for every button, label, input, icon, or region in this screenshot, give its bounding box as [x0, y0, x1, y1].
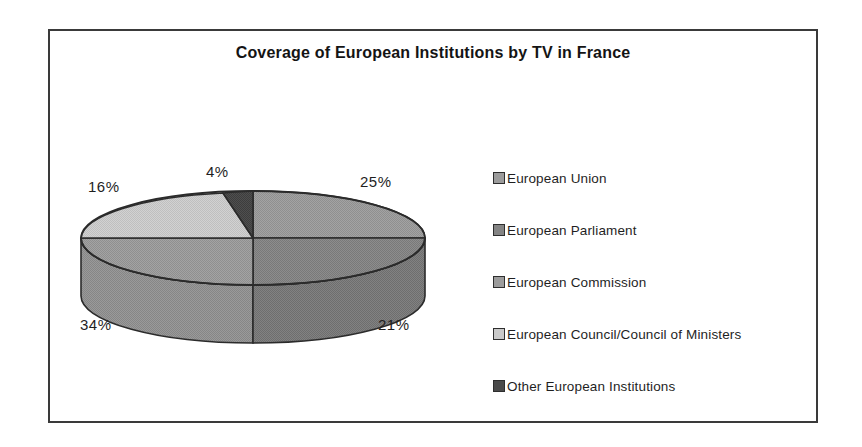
legend-label: European Commission [507, 275, 646, 290]
legend-label: European Council/Council of Ministers [507, 327, 741, 342]
legend-label: European Parliament [507, 223, 637, 238]
legend-item-european-council: European Council/Council of Ministers [493, 308, 803, 360]
pie-chart-figure: Coverage of European Institutions by TV … [0, 0, 862, 447]
legend-swatch-icon [493, 172, 505, 184]
legend-item-european-parliament: European Parliament [493, 204, 803, 256]
pie-label-other-institutions: 4% [206, 163, 229, 180]
legend-swatch-icon [493, 276, 505, 288]
legend-swatch-icon [493, 380, 505, 392]
legend-label: European Union [507, 171, 607, 186]
legend-item-european-union: European Union [493, 152, 803, 204]
legend-swatch-icon [493, 328, 505, 340]
pie-label-european-commission: 34% [80, 316, 112, 333]
chart-title: Coverage of European Institutions by TV … [48, 44, 818, 62]
pie-label-european-council: 16% [88, 178, 120, 195]
legend-swatch-icon [493, 224, 505, 236]
legend-item-other-institutions: Other European Institutions [493, 360, 803, 412]
pie-label-european-union: 25% [360, 173, 392, 190]
chart-legend: European Union European Parliament Europ… [493, 152, 803, 412]
legend-label: Other European Institutions [507, 379, 675, 394]
pie-label-european-parliament: 21% [378, 316, 410, 333]
legend-item-european-commission: European Commission [493, 256, 803, 308]
